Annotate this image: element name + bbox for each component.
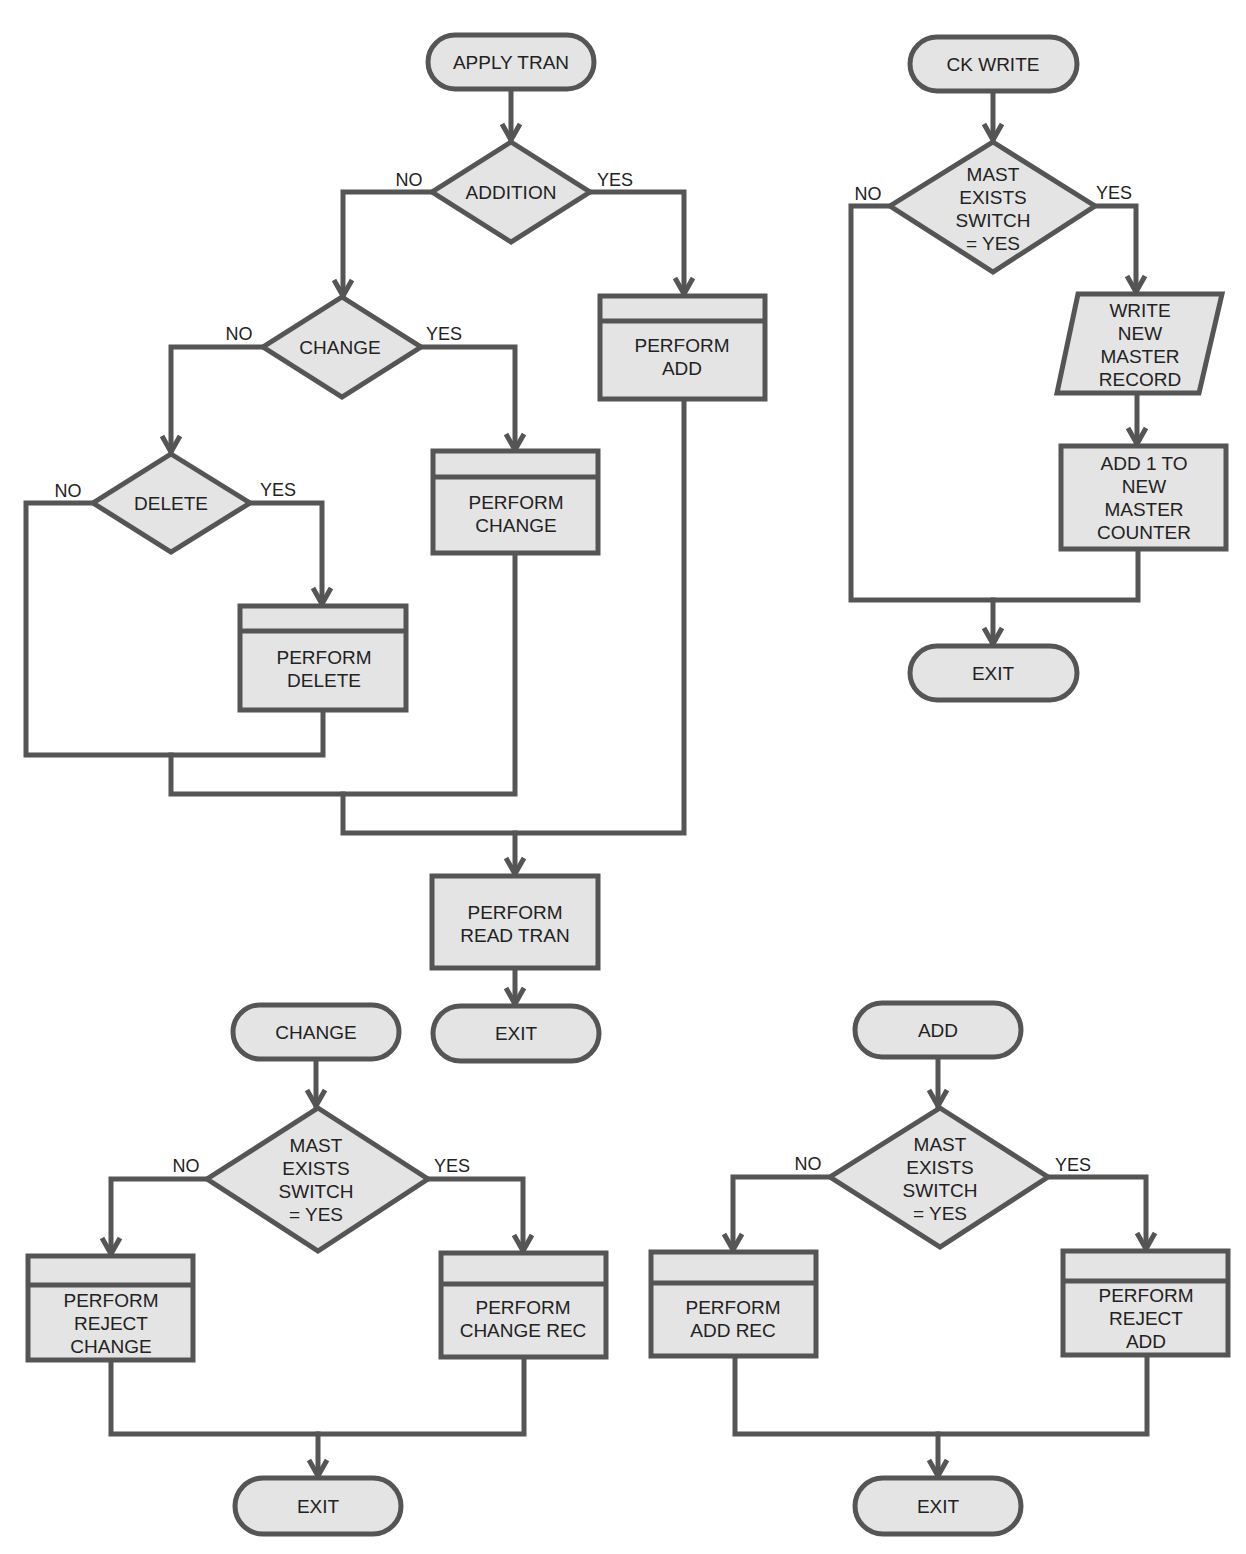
- delete-yes-label: YES: [260, 480, 296, 500]
- add-routine-start-terminal[interactable]: ADD: [855, 1003, 1021, 1057]
- apply-tran-flow: APPLY TRAN ADDITION NO YES PERFORM ADD C…: [26, 35, 765, 1061]
- ck-write-exit-terminal[interactable]: EXIT: [910, 646, 1077, 700]
- change-decision-label: CHANGE: [299, 337, 380, 358]
- add-counter-line3: MASTER: [1104, 499, 1183, 520]
- write-record-line4: RECORD: [1099, 369, 1181, 390]
- reject-change-line2: REJECT: [74, 1313, 148, 1334]
- add-routine-exit-label: EXIT: [917, 1496, 960, 1517]
- change-routine-no-label: NO: [173, 1156, 200, 1176]
- perform-delete-process[interactable]: PERFORM DELETE: [240, 606, 406, 710]
- add-decision-line3: SWITCH: [903, 1180, 978, 1201]
- perform-add-label-line1: PERFORM: [635, 335, 730, 356]
- add-decision-line2: EXISTS: [906, 1157, 974, 1178]
- perform-add-rec-process[interactable]: PERFORM ADD REC: [651, 1252, 816, 1356]
- change-decision-line1: MAST: [290, 1135, 343, 1156]
- change-rec-line1: PERFORM: [476, 1297, 571, 1318]
- ck-write-decision-line2: EXISTS: [959, 187, 1027, 208]
- delete-decision-label: DELETE: [134, 493, 208, 514]
- add-rec-line2: ADD REC: [690, 1320, 776, 1341]
- apply-tran-start-label: APPLY TRAN: [453, 52, 569, 73]
- reject-change-line1: PERFORM: [64, 1290, 159, 1311]
- add-routine-no-label: NO: [795, 1154, 822, 1174]
- change-routine-start-label: CHANGE: [275, 1022, 356, 1043]
- ck-write-mast-exists-decision[interactable]: MAST EXISTS SWITCH = YES NO YES: [855, 142, 1133, 272]
- flowchart-canvas: APPLY TRAN ADDITION NO YES PERFORM ADD C…: [0, 0, 1246, 1554]
- add-1-to-new-master-counter-process[interactable]: ADD 1 TO NEW MASTER COUNTER: [1061, 446, 1226, 549]
- addition-yes-label: YES: [597, 170, 633, 190]
- add-routine-mast-exists-decision[interactable]: MAST EXISTS SWITCH = YES NO YES: [795, 1108, 1092, 1247]
- add-routine-start-label: ADD: [918, 1020, 958, 1041]
- addition-no-label: NO: [396, 170, 423, 190]
- write-record-line2: NEW: [1118, 323, 1162, 344]
- add-routine-yes-label: YES: [1055, 1155, 1091, 1175]
- addition-decision-label: ADDITION: [466, 182, 557, 203]
- change-routine-start-terminal[interactable]: CHANGE: [233, 1005, 399, 1059]
- add-routine-flow: ADD MAST EXISTS SWITCH = YES NO YES PERF…: [651, 1003, 1228, 1534]
- write-record-line3: MASTER: [1100, 346, 1179, 367]
- perform-change-label-line1: PERFORM: [469, 492, 564, 513]
- perform-add-process[interactable]: PERFORM ADD: [600, 296, 765, 399]
- reject-add-line2: REJECT: [1109, 1308, 1183, 1329]
- ck-write-decision-line3: SWITCH: [956, 210, 1031, 231]
- perform-read-tran-label-line1: PERFORM: [468, 902, 563, 923]
- change-decision-line3: SWITCH: [279, 1181, 354, 1202]
- ck-write-start-terminal[interactable]: CK WRITE: [910, 37, 1077, 91]
- perform-delete-label-line1: PERFORM: [277, 647, 372, 668]
- perform-change-rec-process[interactable]: PERFORM CHANGE REC: [441, 1253, 606, 1357]
- add-routine-exit-terminal[interactable]: EXIT: [855, 1478, 1021, 1534]
- perform-read-tran-process[interactable]: PERFORM READ TRAN: [432, 876, 598, 968]
- perform-add-label-line2: ADD: [662, 358, 702, 379]
- add-decision-line1: MAST: [914, 1134, 967, 1155]
- apply-tran-exit-terminal[interactable]: EXIT: [433, 1006, 599, 1061]
- add-counter-line1: ADD 1 TO: [1101, 453, 1188, 474]
- add-counter-line4: COUNTER: [1097, 522, 1191, 543]
- change-routine-flow: CHANGE MAST EXISTS SWITCH = YES NO YES P…: [28, 1005, 606, 1534]
- perform-read-tran-label-line2: READ TRAN: [460, 925, 569, 946]
- ck-write-yes-label: YES: [1096, 183, 1132, 203]
- write-new-master-record-io[interactable]: WRITE NEW MASTER RECORD: [1057, 294, 1222, 393]
- perform-delete-label-line2: DELETE: [287, 670, 361, 691]
- ck-write-no-label: NO: [855, 184, 882, 204]
- reject-add-line3: ADD: [1126, 1331, 1166, 1352]
- add-counter-line2: NEW: [1122, 476, 1166, 497]
- change-routine-exit-label: EXIT: [297, 1496, 340, 1517]
- perform-change-process[interactable]: PERFORM CHANGE: [433, 451, 598, 553]
- change-yes-label: YES: [426, 324, 462, 344]
- change-routine-mast-exists-decision[interactable]: MAST EXISTS SWITCH = YES NO YES: [173, 1108, 471, 1251]
- ck-write-decision-line4: = YES: [966, 233, 1020, 254]
- add-rec-line1: PERFORM: [686, 1297, 781, 1318]
- apply-tran-exit-label: EXIT: [495, 1023, 538, 1044]
- ck-write-flow: CK WRITE MAST EXISTS SWITCH = YES NO YES…: [851, 37, 1226, 700]
- ck-write-decision-line1: MAST: [967, 164, 1020, 185]
- delete-no-label: NO: [55, 481, 82, 501]
- perform-reject-add-process[interactable]: PERFORM REJECT ADD: [1063, 1251, 1228, 1355]
- add-decision-line4: = YES: [913, 1203, 967, 1224]
- reject-add-line1: PERFORM: [1099, 1285, 1194, 1306]
- write-record-line1: WRITE: [1109, 300, 1170, 321]
- change-decision-line2: EXISTS: [282, 1158, 350, 1179]
- change-decision-line4: = YES: [289, 1204, 343, 1225]
- reject-change-line3: CHANGE: [70, 1336, 151, 1357]
- change-no-label: NO: [226, 324, 253, 344]
- ck-write-exit-label: EXIT: [972, 663, 1015, 684]
- ck-write-start-label: CK WRITE: [947, 54, 1040, 75]
- perform-change-label-line2: CHANGE: [475, 515, 556, 536]
- change-routine-yes-label: YES: [434, 1156, 470, 1176]
- perform-reject-change-process[interactable]: PERFORM REJECT CHANGE: [28, 1256, 193, 1360]
- change-routine-exit-terminal[interactable]: EXIT: [235, 1478, 401, 1534]
- change-rec-line2: CHANGE REC: [460, 1320, 587, 1341]
- apply-tran-start-terminal[interactable]: APPLY TRAN: [428, 35, 594, 89]
